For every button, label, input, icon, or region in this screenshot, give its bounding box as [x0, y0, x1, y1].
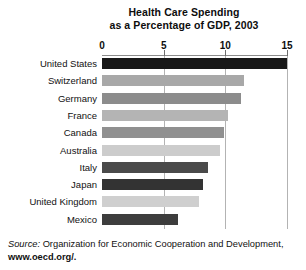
bar-row: Germany — [102, 93, 287, 110]
category-label: Mexico — [1, 214, 97, 226]
x-axis-line — [102, 55, 288, 56]
category-label: Japan — [1, 179, 97, 191]
bar-row: Canada — [102, 127, 287, 144]
category-label: Italy — [1, 162, 97, 174]
x-tick-label: 0 — [91, 40, 113, 52]
bar — [102, 145, 220, 156]
bar — [102, 162, 208, 173]
chart-title-line-1: Health Care Spending — [70, 6, 298, 19]
bar — [102, 58, 287, 69]
bar — [102, 214, 178, 225]
source-trailing-period: . — [74, 252, 77, 262]
bar — [102, 75, 244, 86]
category-label: France — [1, 110, 97, 122]
bar-row: Mexico — [102, 214, 287, 231]
gridline — [287, 56, 288, 229]
chart-title-line-2: as a Percentage of GDP, 2003 — [70, 19, 298, 32]
category-label: United States — [1, 58, 97, 70]
source-label: Source: — [8, 239, 40, 249]
bar-row: Australia — [102, 145, 287, 162]
bar-row: France — [102, 110, 287, 127]
bar-row: Italy — [102, 162, 287, 179]
bar — [102, 127, 224, 138]
bar — [102, 110, 228, 121]
bar — [102, 196, 199, 207]
category-label: United Kingdom — [1, 196, 97, 208]
bar-row: Switzerland — [102, 75, 287, 92]
chart-title: Health Care Spending as a Percentage of … — [70, 6, 298, 31]
source-text: Organization for Economic Cooperation an… — [43, 239, 284, 249]
source-note: Source: Organization for Economic Cooper… — [8, 238, 300, 263]
chart-figure: Health Care Spending as a Percentage of … — [0, 0, 306, 270]
bar — [102, 179, 203, 190]
source-url[interactable]: www.oecd.org/ — [8, 252, 74, 262]
bar — [102, 93, 241, 104]
category-label: Switzerland — [1, 75, 97, 87]
bar-row: United Kingdom — [102, 196, 287, 213]
bar-row: United States — [102, 58, 287, 75]
category-label: Australia — [1, 145, 97, 157]
category-label: Canada — [1, 127, 97, 139]
category-label: Germany — [1, 93, 97, 105]
bar-row: Japan — [102, 179, 287, 196]
